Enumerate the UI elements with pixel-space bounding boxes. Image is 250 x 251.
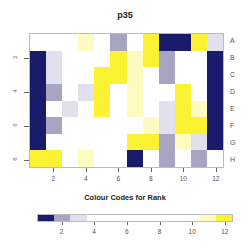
heatmap-cell (175, 84, 191, 101)
heatmap-cell (46, 117, 62, 134)
heatmap-cell (191, 51, 207, 68)
y-tick (24, 58, 29, 59)
color-legend-bar (37, 214, 233, 222)
y-tick-label: 6 (12, 120, 18, 130)
row-label: G (230, 139, 240, 146)
heatmap-cell (207, 117, 223, 134)
heatmap-cell (191, 84, 207, 101)
row-label: A (230, 37, 240, 44)
x-tick-label: 2 (45, 175, 61, 182)
legend-segment (54, 215, 70, 221)
heatmap-cell (175, 101, 191, 118)
heatmap-cell (207, 101, 223, 118)
heatmap-cell (127, 34, 143, 51)
heatmap-cell (159, 67, 175, 84)
heatmap-cell (175, 134, 191, 151)
heatmap-cell (127, 84, 143, 101)
heatmap-cell (30, 84, 46, 101)
heatmap-cell (30, 134, 46, 151)
heatmap-cell (191, 150, 207, 167)
heatmap-cell (78, 84, 94, 101)
heatmap-cell (207, 34, 223, 51)
heatmap-cell (62, 150, 78, 167)
heatmap-cell (46, 34, 62, 51)
chart-title: p35 (0, 10, 250, 20)
heatmap-cell (110, 134, 126, 151)
legend-segment (200, 215, 216, 221)
heatmap-cell (143, 150, 159, 167)
heatmap-cell (62, 117, 78, 134)
legend-tick-label: 6 (119, 228, 135, 235)
x-tick (53, 168, 54, 172)
heatmap-cell (175, 117, 191, 134)
heatmap-cell (94, 84, 110, 101)
heatmap-cell (127, 101, 143, 118)
row-label: F (230, 122, 240, 129)
row-label: H (230, 156, 240, 163)
heatmap-cell (78, 101, 94, 118)
heatmap-cell (127, 134, 143, 151)
row-label: B (230, 54, 240, 61)
heatmap-cell (191, 67, 207, 84)
x-tick-label: 4 (78, 175, 94, 182)
heatmap-cell (159, 84, 175, 101)
x-tick (183, 168, 184, 172)
legend-tick (127, 222, 128, 225)
legend-segment (119, 215, 135, 221)
heatmap-cell (207, 84, 223, 101)
heatmap-cell (94, 67, 110, 84)
heatmap-cell (94, 101, 110, 118)
heatmap-cell (62, 67, 78, 84)
heatmap-cell (94, 117, 110, 134)
legend-segment (135, 215, 151, 221)
legend-tick (225, 222, 226, 225)
heatmap-cell (159, 101, 175, 118)
heatmap-cell (62, 134, 78, 151)
y-tick-label: 2 (12, 52, 18, 62)
heatmap-cell (110, 67, 126, 84)
legend-segment (38, 215, 54, 221)
legend-segment (184, 215, 200, 221)
heatmap-cell (78, 117, 94, 134)
heatmap-cell (110, 34, 126, 51)
heatmap-cell (127, 117, 143, 134)
heatmap-cell (175, 34, 191, 51)
heatmap-cell (207, 134, 223, 151)
heatmap-cell (62, 51, 78, 68)
heatmap-cell (191, 34, 207, 51)
y-tick-label: 8 (12, 154, 18, 164)
heatmap-cell (78, 34, 94, 51)
heatmap-cell (30, 101, 46, 118)
heatmap-cell (110, 51, 126, 68)
y-tick (24, 160, 29, 161)
legend-segment (167, 215, 183, 221)
heatmap-cell (207, 67, 223, 84)
legend-tick-label: 2 (54, 228, 70, 235)
heatmap-cell (175, 51, 191, 68)
heatmap-cell (143, 67, 159, 84)
heatmap-cell (46, 51, 62, 68)
heatmap-cell (143, 84, 159, 101)
heatmap-cell (62, 84, 78, 101)
heatmap-cell (30, 117, 46, 134)
heatmap-cell (110, 101, 126, 118)
heatmap-cell (78, 51, 94, 68)
legend-segment (87, 215, 103, 221)
legend-tick-label: 4 (86, 228, 102, 235)
heatmap-cell (94, 51, 110, 68)
legend-tick (94, 222, 95, 225)
heatmap-cell (94, 34, 110, 51)
legend-tick (62, 222, 63, 225)
legend-tick-label: 8 (152, 228, 168, 235)
x-tick-label: 6 (110, 175, 126, 182)
heatmap-grid (30, 34, 223, 167)
legend-segment (70, 215, 86, 221)
heatmap-cell (62, 101, 78, 118)
legend-segment (103, 215, 119, 221)
heatmap-cell (46, 101, 62, 118)
x-tick (118, 168, 119, 172)
heatmap-cell (191, 134, 207, 151)
legend-tick (160, 222, 161, 225)
y-tick (24, 126, 29, 127)
heatmap-cell (30, 150, 46, 167)
